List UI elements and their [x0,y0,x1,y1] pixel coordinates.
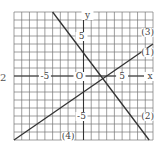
x-tick-label: -5 [40,71,49,81]
line-label: (1) [141,47,154,57]
line-graph: -555-5Oxy(3)(1)(2)(4) [0,0,160,160]
y-axis-label: y [84,10,91,20]
origin-label: O [76,71,83,81]
y-tick-label: 5 [79,31,85,41]
x-axis-label: x [147,71,152,81]
line-label: (4) [62,131,75,141]
line-label: (2) [141,111,154,121]
line-label: (3) [141,27,154,37]
y-tick-label: -5 [77,111,86,121]
x-tick-label: 5 [119,71,125,81]
